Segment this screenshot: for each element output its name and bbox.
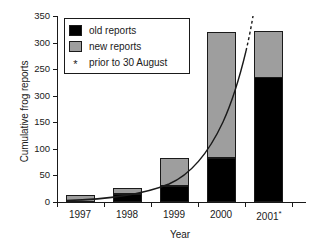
x-tick-label-2001-text: 2001	[256, 211, 278, 222]
bar-segment-old-1998[interactable]	[113, 194, 142, 203]
y-tick-label-300: 300	[16, 37, 50, 48]
bar-segment-new-1997[interactable]	[66, 195, 95, 202]
x-axis-line	[57, 202, 306, 203]
y-tick-label-0: 0	[16, 196, 50, 207]
y-tick-300: 300	[53, 43, 58, 44]
legend-label-footnote: prior to 30 August	[89, 57, 167, 68]
gray-square-icon	[69, 41, 82, 52]
bar-group-2001[interactable]	[254, 31, 283, 202]
x-tick-label-1997-text: 1997	[69, 209, 91, 220]
x-tick-label-2000: 2000	[210, 209, 232, 220]
y-tick-label-250: 250	[16, 63, 50, 74]
x-tick-label-1999-text: 1999	[163, 209, 185, 220]
legend-label-old-reports: old reports	[89, 25, 136, 36]
black-square-icon	[69, 25, 82, 36]
x-axis-title: Year	[55, 229, 305, 240]
y-tick-label-100: 100	[16, 143, 50, 154]
bar-group-2000[interactable]	[207, 32, 236, 202]
trend-curve-dashed	[246, 16, 253, 51]
bar-group-1998[interactable]	[113, 188, 142, 202]
x-tick-label-2001-star: *	[279, 209, 282, 218]
x-tick-label-1997: 1997	[69, 209, 91, 220]
y-tick-50: 50	[53, 175, 58, 176]
legend-item-new-reports: new reports	[69, 38, 185, 54]
legend-item-old-reports: old reports	[69, 22, 185, 38]
x-tick-label-1998-text: 1998	[116, 209, 138, 220]
y-tick-150: 150	[53, 122, 58, 123]
bar-segment-new-2000[interactable]	[207, 32, 236, 158]
bar-segment-old-1999[interactable]	[160, 186, 189, 202]
x-tick-label-2001: 2001*	[256, 209, 281, 222]
y-tick-350: 350	[53, 16, 58, 17]
x-tick-4	[245, 202, 246, 207]
x-tick-1	[104, 202, 105, 207]
x-tick-3	[198, 202, 199, 207]
x-tick-0	[57, 202, 58, 207]
y-tick-label-200: 300	[16, 90, 50, 101]
x-tick-5	[292, 202, 293, 207]
plot-area: 350 300 250 300 150 100 50 0 1997	[57, 16, 305, 202]
x-tick-label-1999: 1999	[163, 209, 185, 220]
y-tick-200: 300	[53, 96, 58, 97]
y-tick-label-50: 50	[16, 169, 50, 180]
bar-segment-new-1999[interactable]	[160, 158, 189, 186]
x-tick-2	[151, 202, 152, 207]
legend: old reports new reports * prior to 30 Au…	[64, 18, 190, 74]
bar-segment-old-2000[interactable]	[207, 158, 236, 202]
legend-item-footnote: * prior to 30 August	[69, 54, 185, 70]
frog-reports-chart-figure: Cumulative frog reports Year 350 300 250…	[0, 0, 316, 250]
y-tick-100: 100	[53, 149, 58, 150]
bar-group-1999[interactable]	[160, 158, 189, 202]
y-tick-label-150: 150	[16, 116, 50, 127]
legend-label-new-reports: new reports	[89, 41, 141, 52]
bar-segment-old-2001[interactable]	[254, 77, 283, 202]
bar-group-1997[interactable]	[66, 195, 95, 202]
y-tick-250: 250	[53, 69, 58, 70]
x-tick-label-1998: 1998	[116, 209, 138, 220]
asterisk-icon: *	[69, 57, 82, 68]
y-tick-label-350: 350	[16, 10, 50, 21]
x-tick-label-2000-text: 2000	[210, 209, 232, 220]
